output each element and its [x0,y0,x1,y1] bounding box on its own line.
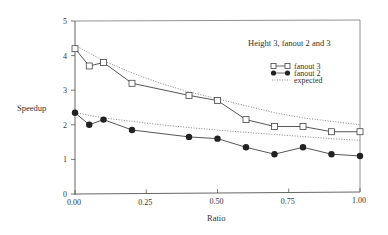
y-tick-label: 2 [63,121,67,130]
filled-circle-marker [100,116,106,122]
filled-circle-marker [271,151,277,157]
filled-circle-marker [300,144,306,150]
open-square-marker [272,124,278,130]
filled-circle-marker [86,122,92,128]
open-square-marker [300,124,306,130]
filled-circle-icon [285,70,290,75]
filled-circle-marker [72,109,78,115]
expected-curve [75,45,360,125]
expected-curves [75,45,360,140]
filled-circle-marker [243,144,249,150]
x-tick-label: 1.00 [352,196,366,205]
x-tick-label: 0.50 [210,197,224,206]
y-tick-label: 5 [63,17,67,26]
top-border [75,20,360,21]
filled-circle-icon [271,70,276,75]
open-square-marker [215,98,221,104]
open-square-marker [86,63,92,69]
y-axis-title: Speedup [17,103,46,113]
open-square-marker [72,46,78,52]
legend-item-expected: expected [272,76,322,85]
y-tick-label: 4 [63,52,67,61]
x-tick-label: 0.25 [138,198,152,207]
open-square-icon [285,64,290,69]
open-square-marker [186,92,192,98]
legend-label: expected [294,76,322,85]
filled-circle-marker [186,134,192,140]
series-line [75,113,360,156]
x-tick-label: 0.00 [67,198,81,207]
speedup-chart: 0123450.000.250.500.751.00 Speedup Ratio… [0,0,388,235]
open-square-marker [357,129,363,135]
open-square-icon [271,64,276,69]
y-tick-label: 3 [63,86,67,95]
open-square-marker [243,117,249,123]
legend: fanout 3 fanout 2 expected [271,62,323,85]
open-square-marker [101,60,107,66]
open-square-marker [329,129,335,135]
open-square-marker [129,80,135,86]
filled-circle-marker [328,151,334,157]
y-tick-label: 1 [63,155,67,164]
x-axis-title: Ratio [207,213,225,223]
filled-circle-marker [214,135,220,141]
filled-circle-marker [357,153,363,159]
filled-circle-marker [129,127,135,133]
chart-title: Height 3, fanout 2 and 3 [248,38,331,48]
x-tick-label: 0.75 [281,197,295,206]
